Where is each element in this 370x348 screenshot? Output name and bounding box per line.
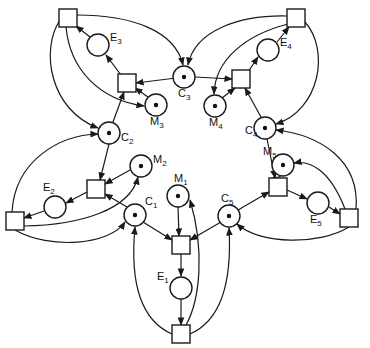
token-dot-icon [213,104,217,108]
transition-t4out [287,9,305,27]
token-dot-icon [107,131,111,135]
transition-t5in [269,178,287,196]
arc-c5-t1in [190,222,221,240]
place-label-m5: M5 [263,145,277,160]
arc-t2out-m2 [24,177,138,226]
arc-c2-t2in [100,144,109,180]
transition-t2in [87,180,105,198]
arc-t3in-e3 [106,55,121,75]
place-label-e5: E5 [310,213,322,228]
transition-t3out [59,9,77,27]
token-dot-icon [263,126,267,130]
token-dot-icon [227,214,231,218]
place-label-m3: M3 [150,115,164,130]
arc-e5-t5out [329,207,340,214]
transition-t1out [172,325,190,343]
place-label-e2: E2 [43,181,55,196]
arc-c2-t3in [113,92,124,122]
arc-t5in-e5 [287,190,307,199]
place-label-m2: M2 [153,153,167,168]
transition-t5out [340,209,358,227]
token-dot-icon [281,163,285,167]
token-dot-icon [154,103,158,107]
arc-m1-t1in [178,207,179,236]
petri-net-diagram: C1C2C3C4C5M1M2M3M4M5E1E2E3E4E5 [0,0,370,348]
place-label-e1: E1 [157,270,169,285]
place-e2 [44,196,66,218]
place-label-e3: E3 [110,31,122,46]
token-dot-icon [133,213,137,217]
arc-c5-t5in [238,192,269,210]
place-e4 [257,39,279,61]
place-e5 [307,192,329,214]
place-label-e4: E4 [280,36,292,51]
arc-t2in-e2 [66,192,87,203]
arc-m2-t2in [105,170,130,184]
place-e1 [170,277,192,299]
arc-t1out-m1 [186,200,199,325]
arc-t5out-c5 [237,224,349,240]
place-e3 [87,34,109,56]
arc-t1out-c5 [190,228,230,334]
transition-t3in [118,74,136,92]
arc-t2out-c1 [15,222,125,242]
arc-e3-t3out [76,26,90,37]
token-dot-icon [176,194,180,198]
arc-c1-t1in [143,222,172,240]
arc-c3-t4in [195,77,232,79]
token-dot-icon [182,75,186,79]
places [44,34,329,299]
arc-e2-t2out [24,211,44,218]
place-label-m4: M4 [209,116,223,131]
place-label-c3: C3 [178,87,191,102]
token-dot-icon [139,164,143,168]
arc-m3-t3in [135,88,148,97]
arc-t4out-m4 [214,24,288,94]
place-label-c2: C2 [121,131,134,146]
transition-t2out [6,212,24,230]
arc-c4-t4in [245,88,261,117]
transition-t1in [172,236,190,254]
place-label-c1: C1 [145,195,158,210]
transition-t4in [232,70,250,88]
arc-m4-t4in [222,88,235,98]
